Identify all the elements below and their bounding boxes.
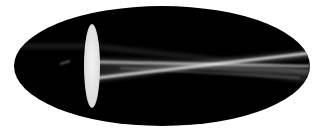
lens-refraction-photo [0,0,321,133]
lens [84,24,100,108]
